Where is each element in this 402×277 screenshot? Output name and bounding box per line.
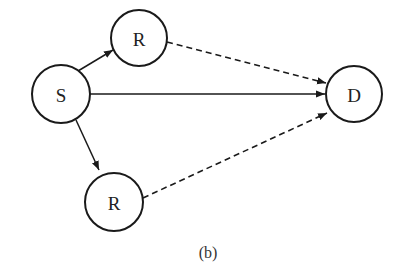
node-destination: D (326, 66, 382, 122)
node-destination-label: D (347, 85, 361, 106)
edge-s-to-r-top (78, 50, 113, 71)
relay-network-diagram: S R R D (b) (0, 0, 402, 277)
node-relay-top: R (111, 10, 167, 66)
node-relay-top-label: R (133, 29, 146, 50)
node-relay-bottom: R (85, 173, 143, 231)
node-source: S (32, 65, 90, 123)
node-relay-bottom-label: R (108, 193, 121, 214)
node-source-label: S (56, 85, 67, 106)
figure-caption: (b) (199, 244, 218, 262)
edge-r-bottom-to-d (143, 113, 327, 198)
edge-s-to-r-bottom (76, 120, 99, 170)
edge-r-top-to-d (167, 42, 326, 83)
